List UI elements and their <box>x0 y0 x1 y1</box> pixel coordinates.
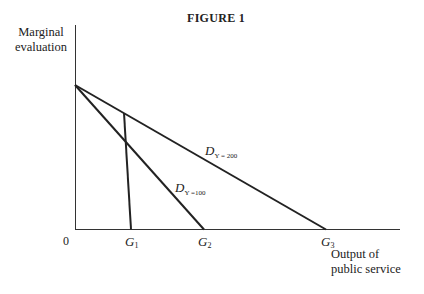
tick-g1: G1 <box>125 234 138 250</box>
x-axis-label-line2: public service <box>331 262 401 277</box>
tick-g1-letter: G <box>125 234 134 249</box>
y-axis-label-line1: Marginal <box>15 25 67 40</box>
curve-label-y100-sub: Y =100 <box>184 189 205 197</box>
curve-label-y200-sub: Y = 200 <box>214 152 237 160</box>
figure-title: FIGURE 1 <box>187 11 245 26</box>
y-axis-label-line2: evaluation <box>15 40 67 55</box>
tick-g1-sub: 1 <box>134 241 138 250</box>
tick-g3-letter: G <box>321 234 330 249</box>
curve-label-y100: DY =100 <box>175 180 205 197</box>
curve-label-y100-letter: D <box>175 180 184 195</box>
origin-label: 0 <box>63 234 69 249</box>
curve-label-y200-letter: D <box>205 143 214 158</box>
demand-curve-y100 <box>75 85 204 230</box>
tick-g2-sub: 2 <box>207 241 211 250</box>
demand-curve-y200 <box>75 85 326 230</box>
tick-g2-letter: G <box>198 234 207 249</box>
x-axis-label: Output of public service <box>331 247 401 277</box>
curve-label-y200: DY = 200 <box>205 143 237 160</box>
g1-line <box>124 113 131 230</box>
tick-g2: G2 <box>198 234 211 250</box>
y-axis-label: Marginal evaluation <box>15 25 67 55</box>
x-axis-label-line1: Output of <box>331 247 401 262</box>
